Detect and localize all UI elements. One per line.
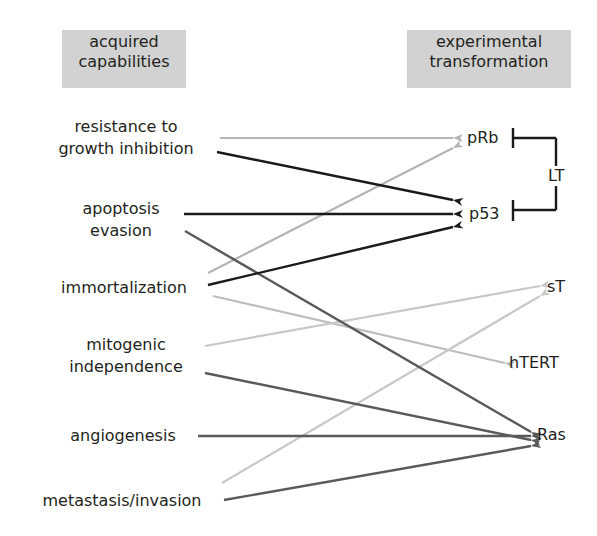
- arrow-htert-immortalization: [213, 296, 505, 363]
- capability-resistance: resistance to growth inhibition: [36, 116, 216, 160]
- capability-metastasis: metastasis/invasion: [26, 490, 218, 512]
- transformation-st: sT: [547, 277, 565, 297]
- arrow-p53-immortalization: [208, 227, 453, 285]
- capability-metastasis-line-1: metastasis/invasion: [26, 490, 218, 512]
- capability-mitogenic-line-1: mitogenic: [54, 334, 198, 356]
- capability-angiogenesis: angiogenesis: [56, 425, 190, 447]
- capability-immortalization-line-1: immortalization: [44, 277, 204, 299]
- arrow-prb-immortalization: [208, 148, 453, 273]
- arrow-st-metastasis: [222, 296, 540, 483]
- capability-resistance-line-1: resistance to: [36, 116, 216, 138]
- capability-mitogenic-line-2: independence: [54, 356, 198, 378]
- transformation-p53: p53: [469, 204, 500, 224]
- transformation-ras: Ras: [537, 425, 566, 445]
- arrow-p53-resistance: [217, 152, 453, 200]
- capability-apoptosis-line-2: evasion: [66, 220, 176, 242]
- arrow-ras-mitogenic: [205, 373, 531, 440]
- capability-angiogenesis-line-1: angiogenesis: [56, 425, 190, 447]
- arrow-st-mitogenic: [205, 286, 540, 346]
- capability-resistance-line-2: growth inhibition: [36, 138, 216, 160]
- capability-apoptosis-line-1: apoptosis: [66, 198, 176, 220]
- transformation-prb: pRb: [467, 128, 498, 148]
- capability-immortalization: immortalization: [44, 277, 204, 299]
- transformation-htert: hTERT: [509, 353, 559, 373]
- bracket-label-lt: LT: [548, 166, 564, 186]
- capability-apoptosis: apoptosis evasion: [66, 198, 176, 242]
- capability-mitogenic: mitogenic independence: [54, 334, 198, 378]
- connection-arrows: [0, 0, 597, 536]
